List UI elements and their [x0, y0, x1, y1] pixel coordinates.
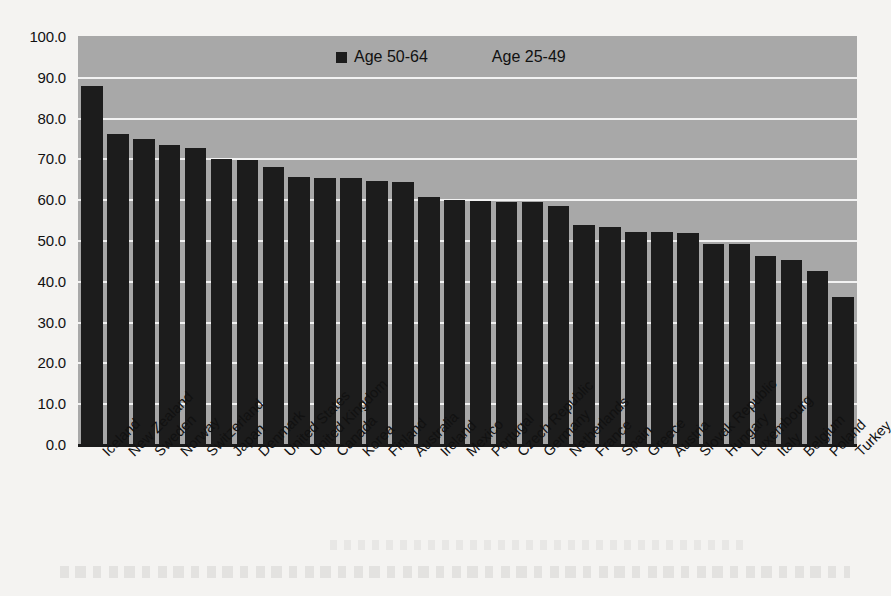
- y-axis-tick-label: 10.0: [38, 395, 66, 412]
- x-axis-tick-label: United Kingdom: [307, 448, 318, 459]
- plot-area: [78, 36, 857, 447]
- bar: [418, 197, 440, 444]
- x-axis-tick-label: Greece: [644, 448, 655, 459]
- x-axis-tick-label: Luxembourg: [748, 448, 759, 459]
- bar: [496, 202, 518, 444]
- x-axis-tick-label: Turkey: [852, 448, 863, 459]
- x-axis-tick-label: Italy: [774, 448, 785, 459]
- y-axis-tick-label: 0.0: [46, 436, 66, 453]
- legend-swatch-icon: [474, 52, 485, 63]
- y-axis-tick-label: 70.0: [38, 150, 66, 167]
- y-axis-tick-label: 50.0: [38, 232, 66, 249]
- y-axis-tick-label: 100.0: [29, 28, 66, 45]
- x-axis-tick-label: Denmark: [255, 448, 266, 459]
- bar: [703, 244, 725, 444]
- y-axis-tick-label: 60.0: [38, 191, 66, 208]
- chart-figure: 100.090.080.070.060.050.040.030.020.010.…: [0, 0, 891, 596]
- x-axis-tick-label: Spain: [618, 448, 629, 459]
- legend-item[interactable]: Age 50-64: [336, 48, 428, 66]
- legend-label: Age 50-64: [354, 48, 428, 66]
- bar: [211, 159, 233, 444]
- bar: [288, 177, 310, 444]
- bar: [522, 202, 544, 444]
- y-axis-tick-label: 20.0: [38, 354, 66, 371]
- x-axis-tick-label: Mexico: [463, 448, 474, 459]
- x-axis-tick-label: Iceland: [99, 448, 110, 459]
- bar: [81, 86, 103, 444]
- bar: [651, 232, 673, 444]
- chart-legend: Age 50-64Age 25-49: [336, 48, 566, 66]
- y-axis: 100.090.080.070.060.050.040.030.020.010.…: [0, 36, 72, 444]
- bar: [107, 134, 129, 444]
- x-axis-tick-label: Slovak Republic: [696, 448, 707, 459]
- y-axis-tick-label: 40.0: [38, 272, 66, 289]
- x-axis-tick-label: United States: [281, 448, 292, 459]
- bar: [807, 271, 829, 444]
- x-axis-tick-label: Canada: [333, 448, 344, 459]
- x-axis-tick-label: Poland: [826, 448, 837, 459]
- bar: [444, 200, 466, 444]
- legend-label: Age 25-49: [492, 48, 566, 66]
- x-axis-tick-label: Korea: [359, 448, 370, 459]
- x-axis-tick-label: Netherlands: [566, 448, 577, 459]
- x-axis-tick-label: Belgium: [800, 448, 811, 459]
- bar: [133, 139, 155, 444]
- bar: [470, 201, 492, 444]
- x-axis-tick-label: Austria: [670, 448, 681, 459]
- y-axis-tick-label: 90.0: [38, 68, 66, 85]
- bar: [625, 232, 647, 444]
- bar: [263, 167, 285, 444]
- x-axis-tick-label: Portugal: [488, 448, 499, 459]
- x-axis-tick-label: New Zealand: [125, 448, 136, 459]
- x-axis-tick-label: Finland: [385, 448, 396, 459]
- bar: [392, 182, 414, 444]
- x-axis-tick-label: Switzerland: [203, 448, 214, 459]
- bar-series-age-50-64: [78, 36, 857, 444]
- bar: [677, 233, 699, 444]
- x-axis-tick-label: Germany: [540, 448, 551, 459]
- x-axis-tick-label: France: [592, 448, 603, 459]
- x-axis-tick-label: Ireland: [437, 448, 448, 459]
- x-axis-tick-label: Japan: [229, 448, 240, 459]
- y-axis-tick-label: 80.0: [38, 109, 66, 126]
- legend-swatch-icon: [336, 52, 347, 63]
- y-axis-tick-label: 30.0: [38, 313, 66, 330]
- x-axis-tick-label: Australia: [411, 448, 422, 459]
- x-axis-tick-label: Norway: [177, 448, 188, 459]
- legend-item[interactable]: Age 25-49: [474, 48, 566, 66]
- page-bleed-through-artifact: [60, 566, 850, 578]
- x-axis-tick-label: Czech Republic: [514, 448, 525, 459]
- x-axis-tick-label: Hungary: [722, 448, 733, 459]
- x-axis-tick-label: Sweden: [151, 448, 162, 459]
- page-bleed-through-artifact-secondary: [330, 540, 750, 550]
